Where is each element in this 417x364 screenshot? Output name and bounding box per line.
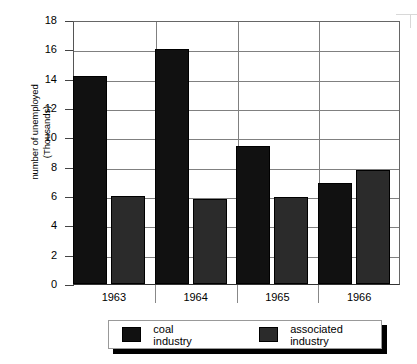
legend-label: associated industry: [290, 323, 381, 347]
x-axis-tick-label: 1966: [319, 291, 399, 303]
y-axis-tick-label: 16: [17, 44, 57, 55]
gridline-horizontal: [74, 81, 399, 82]
legend-item-associated-industry[interactable]: associated industry: [259, 323, 381, 347]
bar-1963-associated: [111, 196, 145, 284]
y-axis-tick-label: 4: [17, 220, 57, 231]
bar-1966-coal: [318, 183, 352, 284]
legend-item-coal-industry[interactable]: coal industry: [122, 323, 213, 347]
y-axis-tick-label: 6: [17, 191, 57, 202]
y-axis-tick: [65, 285, 74, 286]
bar-chart: number of unemployed (Thousands) 0246810…: [0, 0, 417, 364]
legend-label: coal industry: [153, 323, 212, 347]
bar-1965-associated: [274, 197, 308, 284]
y-axis-tick-label: 18: [17, 15, 57, 26]
legend-swatch-icon: [122, 327, 141, 342]
x-axis-tick-label: 1964: [156, 291, 236, 303]
bar-1963-coal: [73, 76, 107, 284]
y-axis-tick-label: 12: [17, 103, 57, 114]
legend-swatch-icon: [259, 327, 278, 342]
gridline-horizontal: [74, 139, 399, 140]
gridline-horizontal: [74, 110, 399, 111]
chart-legend: coal industryassociated industry: [108, 320, 382, 349]
plot-area: [73, 21, 400, 285]
y-axis-tick-label: 10: [17, 132, 57, 143]
y-axis-tick-label: 2: [17, 250, 57, 261]
bar-1966-associated: [356, 170, 390, 284]
y-axis-tick-label: 0: [17, 279, 57, 290]
x-axis-tick-label: 1963: [74, 291, 154, 303]
y-axis-tick-label: 14: [17, 74, 57, 85]
x-axis-tick-label: 1965: [237, 291, 317, 303]
bar-1964-associated: [193, 199, 227, 284]
gridline-horizontal: [74, 51, 399, 52]
bar-1964-coal: [155, 49, 189, 284]
scan-artifact-top-right: [396, 14, 417, 15]
bar-1965-coal: [236, 146, 270, 284]
scan-artifact-right-edge: [410, 14, 411, 28]
y-axis-tick-label: 8: [17, 162, 57, 173]
